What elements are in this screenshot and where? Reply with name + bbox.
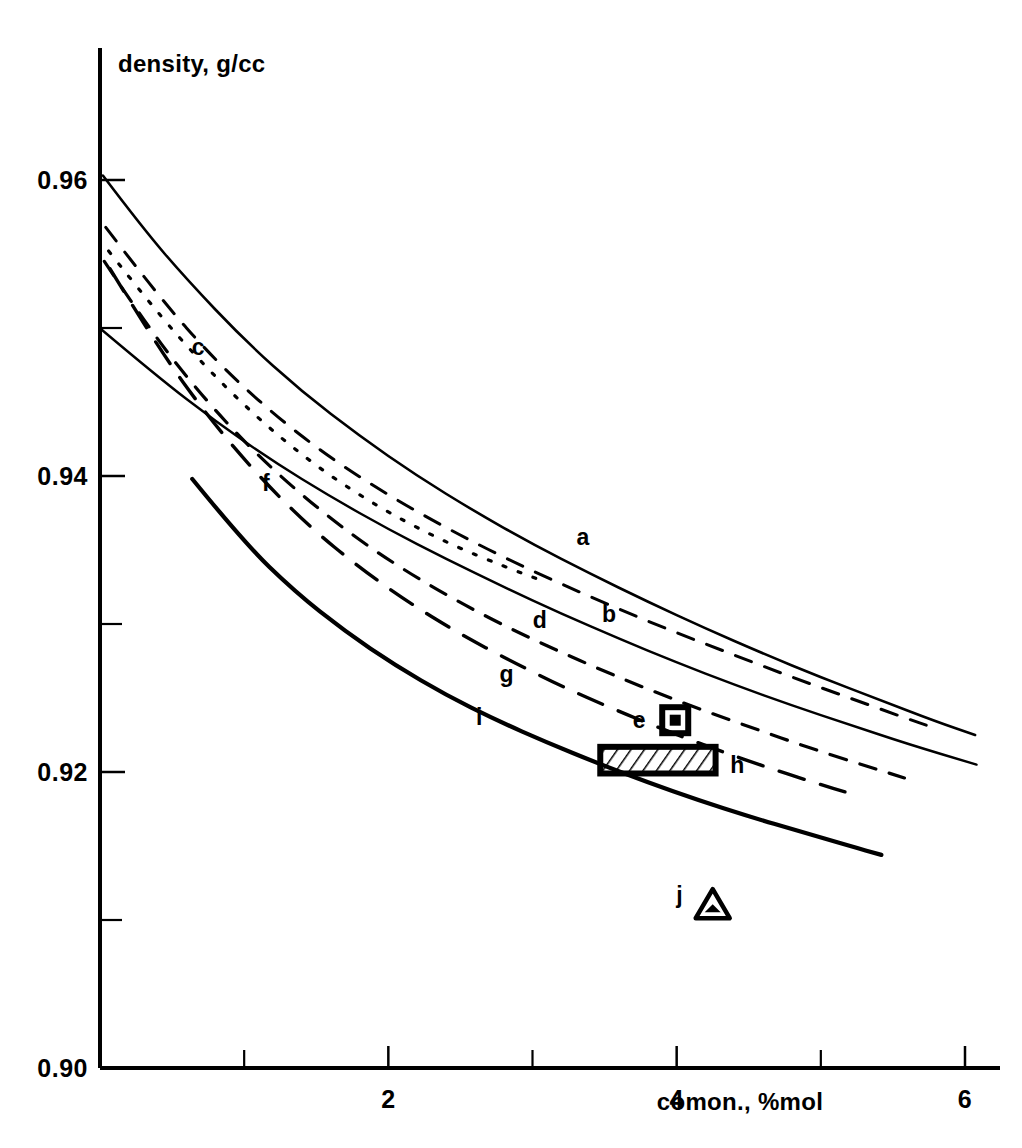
y-axis-tick-labels: 0.900.920.940.96	[37, 166, 88, 1082]
series-label-j: j	[675, 882, 682, 908]
curve-c	[109, 251, 547, 583]
series-label-b: b	[602, 601, 616, 627]
series-label-g: g	[500, 661, 514, 687]
y-tick-label: 0.96	[37, 166, 88, 194]
series-label-a: a	[577, 524, 590, 550]
y-tick-label: 0.92	[37, 758, 88, 786]
data-series	[101, 176, 976, 919]
curve-i	[192, 479, 881, 855]
curve-a	[103, 176, 975, 735]
chart-figure: 0.900.920.940.96 246 density, g/cc comon…	[0, 0, 1022, 1148]
series-labels: abcdefghij	[192, 334, 745, 908]
x-axis-ticks	[244, 1046, 965, 1068]
x-tick-label: 6	[958, 1085, 972, 1113]
series-label-c: c	[192, 334, 205, 360]
marker-j	[696, 889, 730, 918]
series-label-d: d	[533, 607, 547, 633]
x-tick-label: 2	[381, 1085, 395, 1113]
y-tick-label: 0.90	[37, 1054, 88, 1082]
y-axis-title: density, g/cc	[118, 50, 266, 77]
y-axis-ticks	[100, 180, 125, 1068]
series-label-e: e	[633, 707, 646, 733]
series-label-f: f	[262, 470, 270, 496]
x-axis-title: comon., %mol	[657, 1088, 823, 1115]
chart-svg: 0.900.920.940.96 246 density, g/cc comon…	[0, 0, 1022, 1148]
axes	[100, 48, 1000, 1068]
curve-d	[106, 227, 934, 727]
series-label-h: h	[730, 752, 744, 778]
y-tick-label: 0.94	[37, 462, 88, 490]
series-label-i: i	[476, 704, 482, 730]
